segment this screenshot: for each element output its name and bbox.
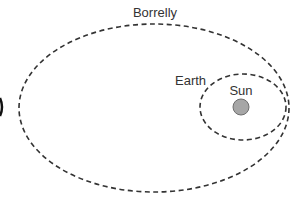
borrelly-label: Borrelly [133,5,178,20]
sun-label: Sun [229,83,252,98]
earth-label: Earth [175,73,206,88]
cropped-edge-mark [0,98,2,116]
sun-icon [233,99,249,115]
orbit-diagram: Borrelly Earth Sun [0,0,303,198]
